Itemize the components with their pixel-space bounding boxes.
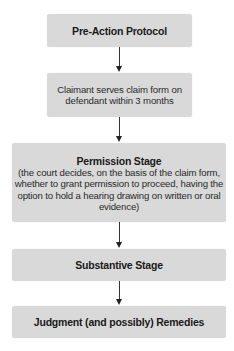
arrow-connector (119, 47, 120, 67)
arrow-connector (119, 222, 120, 242)
node-permission-stage: Permission Stage (the court decides, on … (12, 143, 226, 222)
node-line: (the court decides, on the basis of the … (18, 167, 220, 178)
node-line: option to hold a hearing drawing on writ… (17, 190, 220, 201)
node-title: Permission Stage (77, 155, 162, 167)
node-line: Claimant serves claim form on (57, 84, 182, 95)
node-substantive-stage: Substantive Stage (12, 249, 226, 281)
node-line: defendant within 3 months (65, 95, 173, 106)
node-claim-form: Claimant serves claim form on defendant … (47, 73, 192, 117)
node-pre-action-protocol: Pre-Action Protocol (47, 14, 192, 47)
node-title: Judgment (and possibly) Remedies (34, 316, 204, 328)
arrow-connector (119, 117, 120, 137)
node-title: Substantive Stage (75, 259, 163, 271)
node-judgment-remedies: Judgment (and possibly) Remedies (12, 306, 226, 338)
arrowhead-icon (116, 242, 122, 248)
arrowhead-icon (116, 299, 122, 305)
arrowhead-icon (116, 66, 122, 72)
arrowhead-icon (116, 136, 122, 142)
arrow-connector (119, 281, 120, 300)
node-line: evidence) (99, 201, 139, 212)
node-line: whether to grant permission to proceed, … (15, 178, 224, 189)
node-title: Pre-Action Protocol (72, 25, 167, 37)
